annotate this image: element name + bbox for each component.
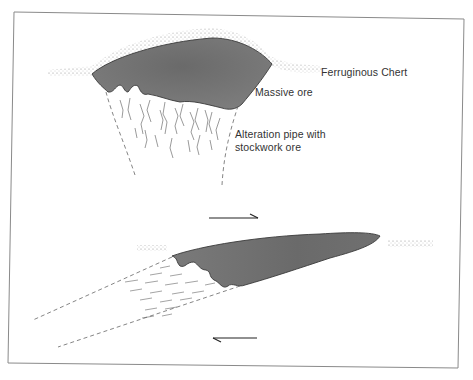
label-ferruginous-chert: Ferruginous Chert [321,66,407,78]
label-alteration-pipe-line2: stockwork ore [235,141,301,153]
deformed-ore-body [172,233,380,287]
shear-arrow-right-upper [209,214,258,218]
alteration-zone-lower-boundary [58,286,240,347]
massive-ore-body [92,38,272,109]
flattened-veinlets [125,266,215,318]
alteration-pipe-left-boundary [106,92,135,175]
label-alteration-pipe-line1: Alteration pipe with [235,128,326,140]
stockwork-veinlets [120,98,220,158]
shear-arrow-left-lower [213,338,257,342]
diagram-canvas [0,0,473,380]
lower-panel [33,233,433,347]
upper-panel [48,28,322,218]
alteration-zone-upper-boundary [33,257,172,320]
label-massive-ore: Massive ore [255,86,313,98]
